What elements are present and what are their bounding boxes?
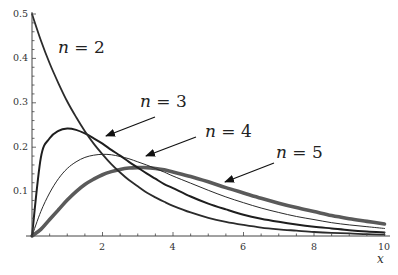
annotation-n3-var: n — [140, 91, 151, 111]
annotation-n5-var: n — [276, 142, 287, 162]
annotation-n4-var: n — [205, 121, 216, 141]
y-tick-label-0.1: 0.1 — [13, 185, 28, 196]
x-axis: x — [26, 232, 390, 266]
annotation-n5: n = 5 — [276, 142, 323, 162]
x-axis-label: x — [377, 252, 384, 266]
annotation-n3: n = 3 — [140, 91, 187, 111]
x-tick-label-6: 6 — [240, 241, 246, 252]
annotation-n2-value: = 2 — [69, 37, 105, 57]
x-tick-label-2: 2 — [99, 241, 105, 252]
y-tick-label-0.2: 0.2 — [13, 141, 28, 152]
curve-n4 — [32, 154, 385, 236]
y-tick-label-0.5: 0.5 — [13, 8, 28, 19]
annotation-n3-value: = 3 — [151, 91, 187, 111]
x-tick-label-8: 8 — [311, 241, 317, 252]
arrow-n5 — [225, 163, 274, 182]
arrow-n4 — [146, 137, 196, 156]
annotation-n2-var: n — [58, 37, 69, 57]
y-tick-label-0.3: 0.3 — [13, 96, 28, 107]
chi-square-density-chart: x 2 4 6 8 10 0.1 0.2 0.3 0.4 0.5 n = 2 n… — [0, 0, 398, 275]
arrow-n3 — [106, 117, 155, 136]
x-tick-label-10: 10 — [378, 241, 390, 252]
annotation-n5-value: = 5 — [287, 142, 323, 162]
y-tick-label-0.4: 0.4 — [13, 52, 28, 63]
x-tick-label-4: 4 — [169, 241, 175, 252]
curve-n5 — [32, 168, 385, 236]
annotation-n2: n = 2 — [58, 37, 105, 57]
annotation-n4-value: = 4 — [216, 121, 252, 141]
annotation-n4: n = 4 — [205, 121, 252, 141]
